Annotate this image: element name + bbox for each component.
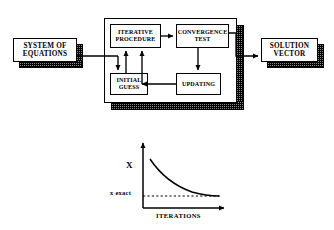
chart-series-x-curve (150, 159, 219, 196)
initial-guess-box[interactable]: INITIAL GUESS (110, 73, 148, 95)
initial-guess-label: INITIAL GUESS (116, 77, 141, 91)
convergence-test-box[interactable]: CONVERGENCE TEST (176, 24, 229, 48)
panel-shadow-bottom (111, 102, 244, 110)
updating-box[interactable]: UPDATING (176, 73, 221, 95)
box-shadow-right (317, 44, 324, 62)
panel-shadow-right (236, 25, 244, 103)
iterative-procedure-box[interactable]: ITERATIVE PROCEDURE (110, 24, 161, 48)
box-shadow-bottom (19, 61, 83, 68)
iterative-procedure-label: ITERATIVE PROCEDURE (116, 29, 156, 43)
updating-label: UPDATING (182, 81, 215, 88)
box-face: SOLUTION VECTOR (261, 38, 318, 62)
chart-ylabel: X (126, 160, 133, 170)
box-shadow-right (76, 44, 83, 62)
system-of-equations-label: SYSTEM OF EQUATIONS (23, 42, 67, 58)
convergence-test-label: CONVERGENCE TEST (178, 29, 228, 43)
system-of-equations-box[interactable]: SYSTEM OF EQUATIONS (13, 38, 83, 68)
solution-vector-label: SOLUTION VECTOR (270, 42, 310, 58)
diagram-canvas: SYSTEM OF EQUATIONS SOLUTION VECTOR ITER… (0, 0, 334, 230)
solution-vector-box[interactable]: SOLUTION VECTOR (261, 38, 324, 68)
chart-asymptote-label: x exact (110, 189, 131, 196)
box-face: SYSTEM OF EQUATIONS (13, 38, 77, 62)
chart-xlabel: ITERATIONS (156, 212, 201, 219)
box-shadow-bottom (267, 61, 324, 68)
